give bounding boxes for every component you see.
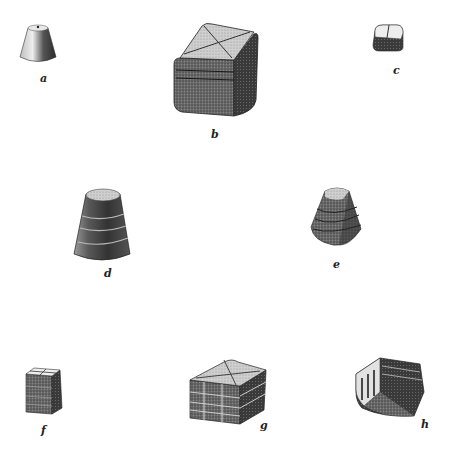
fluted-block-weight-icon bbox=[354, 352, 426, 418]
label-d: d bbox=[104, 267, 112, 280]
weight-b bbox=[170, 20, 260, 118]
label-c: c bbox=[393, 64, 400, 77]
label-a: a bbox=[40, 72, 47, 85]
weight-e bbox=[309, 187, 363, 247]
label-f: f bbox=[41, 424, 46, 437]
weight-c bbox=[371, 23, 405, 53]
label-b: b bbox=[211, 128, 219, 141]
square-block-weight-icon bbox=[188, 356, 268, 426]
label-g: g bbox=[260, 419, 268, 432]
weight-f bbox=[24, 366, 64, 416]
label-h: h bbox=[421, 418, 429, 431]
pyramid-weight-icon bbox=[309, 187, 363, 247]
block-weight-icon bbox=[24, 366, 64, 416]
weight-a bbox=[18, 22, 58, 67]
grooved-cone-weight-icon bbox=[72, 188, 132, 263]
weight-g bbox=[188, 356, 268, 426]
small-cube-weight-icon bbox=[371, 23, 405, 53]
cone-weight-icon bbox=[18, 22, 58, 67]
weight-d bbox=[72, 188, 132, 263]
cube-weight-icon bbox=[170, 20, 260, 118]
weight-h bbox=[354, 352, 426, 418]
label-e: e bbox=[333, 258, 340, 271]
